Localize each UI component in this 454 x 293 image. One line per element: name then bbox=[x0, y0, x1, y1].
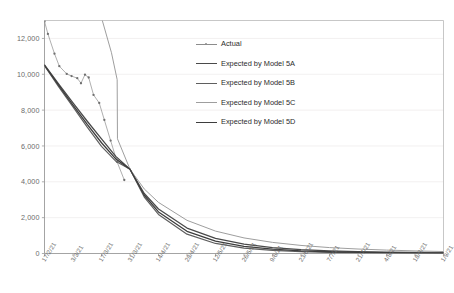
legend-swatch-icon bbox=[196, 98, 217, 107]
data-point-marker bbox=[123, 179, 125, 181]
data-point-marker bbox=[84, 73, 86, 75]
legend-label: Expected by Model 5B bbox=[221, 78, 295, 87]
legend-item-4[interactable]: Expected by Model 5D bbox=[196, 112, 336, 132]
legend-label: Expected by Model 5A bbox=[221, 59, 295, 68]
data-point-marker bbox=[92, 94, 94, 96]
legend-label: Actual bbox=[221, 39, 242, 48]
legend-swatch-icon bbox=[196, 39, 217, 48]
data-point-marker bbox=[88, 76, 90, 78]
data-point-marker bbox=[47, 33, 49, 35]
series-line bbox=[45, 21, 125, 180]
data-point-marker bbox=[98, 102, 100, 104]
y-axis-tick-label: 0 bbox=[0, 249, 40, 258]
data-point-marker bbox=[76, 77, 78, 79]
legend-item-1[interactable]: Expected by Model 5A bbox=[196, 54, 336, 74]
legend-label: Expected by Model 5D bbox=[221, 117, 295, 126]
chart-legend: ActualExpected by Model 5AExpected by Mo… bbox=[196, 34, 336, 132]
legend-swatch-icon bbox=[196, 59, 217, 68]
legend-swatch-icon bbox=[196, 78, 217, 87]
y-axis-tick-label: 4,000 bbox=[0, 177, 40, 186]
legend-item-0[interactable]: Actual bbox=[196, 34, 336, 54]
legend-item-3[interactable]: Expected by Model 5C bbox=[196, 93, 336, 113]
data-point-marker bbox=[109, 139, 111, 141]
y-axis-tick-label: 10,000 bbox=[0, 70, 40, 79]
data-point-marker bbox=[80, 82, 82, 84]
data-point-marker bbox=[70, 75, 72, 77]
y-axis-tick-label: 12,000 bbox=[0, 34, 40, 43]
y-axis-tick-label: 8,000 bbox=[0, 106, 40, 115]
data-point-marker bbox=[66, 73, 68, 75]
y-axis-tick-label: 6,000 bbox=[0, 142, 40, 151]
data-point-marker bbox=[53, 53, 55, 55]
legend-label: Expected by Model 5C bbox=[221, 98, 295, 107]
legend-swatch-icon bbox=[196, 117, 217, 126]
legend-item-2[interactable]: Expected by Model 5B bbox=[196, 73, 336, 93]
data-point-marker bbox=[103, 119, 105, 121]
y-axis-tick-label: 2,000 bbox=[0, 213, 40, 222]
data-point-marker bbox=[58, 65, 60, 67]
